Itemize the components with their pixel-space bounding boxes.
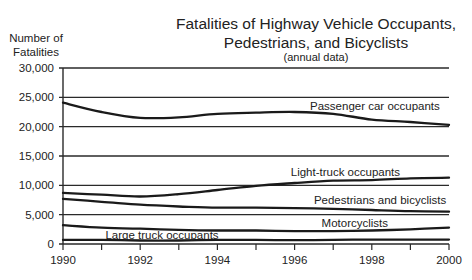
x-tick-label: 1994: [205, 254, 231, 266]
y-tick-label: 20,000: [19, 121, 54, 133]
y-tick-label: 0: [48, 238, 54, 250]
y-tick-label: 30,000: [19, 62, 54, 74]
series-label-passenger-car-occupants: Passenger car occupants: [310, 100, 440, 112]
series-label-light-truck-occupants: Light-truck occupants: [291, 166, 401, 178]
x-tick-label: 1992: [127, 254, 153, 266]
x-tick-label: 1998: [359, 254, 385, 266]
y-tick-label: 25,000: [19, 91, 54, 103]
gridlines: [59, 68, 449, 244]
series-label-pedestrians-and-bicyclists: Pedestrians and bicyclists: [314, 194, 447, 206]
x-tick-label: 1990: [50, 254, 76, 266]
y-tick-label: 5,000: [25, 209, 54, 221]
x-tick-label: 1996: [282, 254, 308, 266]
y-tick-label: 10,000: [19, 179, 54, 191]
x-axis-ticks: 199019921994199619982000: [50, 244, 462, 266]
line-chart: 05,00010,00015,00020,00025,00030,000 199…: [0, 0, 472, 280]
series-label-large-truck-occupants: Large truck occupants: [105, 229, 218, 241]
x-tick-label: 2000: [436, 254, 462, 266]
y-tick-label: 15,000: [19, 150, 54, 162]
series-label-motorcyclists: Motorcyclists: [322, 217, 389, 229]
y-axis-ticks: 05,00010,00015,00020,00025,00030,000: [19, 62, 54, 250]
